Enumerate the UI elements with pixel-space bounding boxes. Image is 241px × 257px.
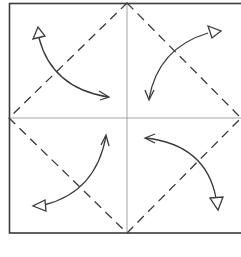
- origami-fold-diagram: [0, 0, 241, 257]
